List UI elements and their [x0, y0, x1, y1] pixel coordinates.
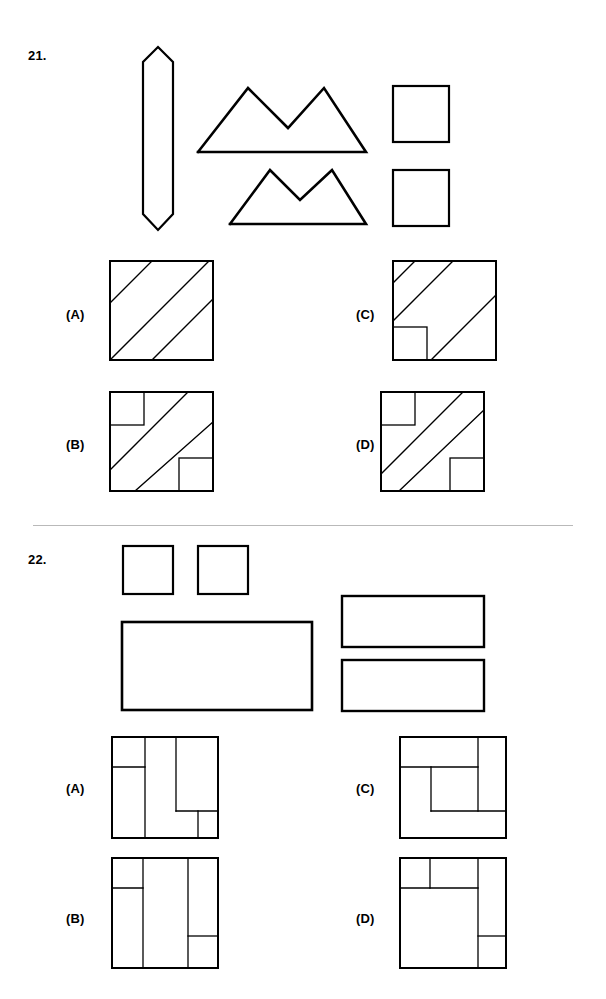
corner-square-top-left — [110, 392, 144, 425]
option-outer-square — [381, 392, 484, 491]
small-square-left-outline — [123, 546, 173, 594]
question-number: 21. — [28, 48, 47, 63]
double-peak-mountain-small-outline — [230, 170, 366, 224]
diagonal-line-2 — [399, 410, 484, 491]
option-figure[interactable] — [106, 388, 217, 495]
square-bottom-outline — [393, 170, 449, 226]
corner-square-top-left — [381, 392, 415, 425]
large-rectangle-outline — [122, 622, 312, 710]
option-label[interactable]: (A) — [66, 781, 85, 796]
diagonal-line-2 — [135, 422, 213, 491]
option-label[interactable]: (B) — [66, 437, 85, 452]
wide-rectangle-top-outline — [342, 596, 484, 647]
option-figure[interactable] — [108, 854, 222, 972]
double-peak-mountain-large-outline — [198, 88, 366, 152]
small-square-right-outline — [198, 546, 248, 594]
option-label[interactable]: (A) — [66, 307, 85, 322]
diagonal-line-1 — [110, 392, 188, 470]
corner-square-bottom-right — [450, 458, 484, 491]
square-top — [389, 82, 453, 146]
wide-rectangle-bottom — [338, 656, 488, 715]
corner-square-bottom-right — [179, 458, 213, 491]
option-outer-square — [400, 858, 506, 968]
diagonal-line-3 — [431, 295, 496, 360]
option-figure[interactable] — [389, 257, 500, 364]
option-figure[interactable] — [108, 733, 222, 842]
double-peak-mountain-large — [192, 80, 372, 160]
option-outer-square — [112, 737, 218, 838]
double-peak-mountain-small — [224, 162, 372, 232]
option-outer-square — [112, 858, 218, 968]
wide-rectangle-bottom-outline — [342, 660, 484, 711]
diagonal-line-1 — [381, 392, 463, 474]
option-label[interactable]: (C) — [356, 307, 375, 322]
wide-rectangle-top — [338, 592, 488, 651]
option-outer-square — [400, 737, 506, 838]
small-square-left — [119, 542, 177, 598]
large-rectangle — [118, 618, 316, 714]
option-outer-square — [110, 392, 213, 491]
square-top-outline — [393, 86, 449, 142]
option-label[interactable]: (B) — [66, 911, 85, 926]
question-number: 22. — [28, 552, 47, 567]
option-label[interactable]: (D) — [356, 911, 375, 926]
small-square-right — [194, 542, 252, 598]
option-figure[interactable] — [377, 388, 488, 495]
option-figure[interactable] — [396, 733, 510, 842]
elongated-hexagon-outline — [143, 47, 173, 230]
corner-square-bottom-left — [393, 327, 427, 360]
option-figure[interactable] — [396, 854, 510, 972]
diagonal-line-2 — [393, 261, 453, 321]
diagonal-line-1 — [110, 261, 152, 303]
diagonal-line-2 — [110, 261, 209, 360]
option-label[interactable]: (D) — [356, 437, 375, 452]
option-figure[interactable] — [106, 257, 217, 364]
section-divider — [33, 525, 573, 526]
diagonal-line-1 — [393, 261, 415, 283]
square-bottom — [389, 166, 453, 230]
option-label[interactable]: (C) — [356, 781, 375, 796]
elongated-hexagon — [138, 42, 182, 236]
worksheet-page: 21.(A)(B)(C)(D)22.(A)(B)(C)(D) — [0, 0, 606, 999]
